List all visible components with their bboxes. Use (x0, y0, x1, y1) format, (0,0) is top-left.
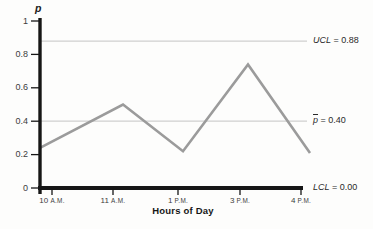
y-tick-label: 1 (0, 16, 28, 27)
x-tick-label: 10 A.M. (28, 196, 76, 206)
meridiem-suffix: P.M. (237, 197, 251, 204)
meridiem-suffix: P.M. (298, 197, 312, 204)
pbar-value: = 0.40 (318, 115, 346, 125)
lcl-label: LCL = 0.00 (313, 182, 357, 193)
lcl-value: = 0.00 (330, 182, 358, 192)
p-control-chart: p Hours of Day 10.80.60.40.2010 A.M.11 A… (0, 0, 373, 229)
meridiem-suffix: A.M. (111, 197, 125, 204)
y-tick-label: 0.8 (0, 49, 28, 60)
x-tick-label: 11 A.M. (89, 196, 137, 206)
ucl-label: UCL = 0.88 (313, 35, 359, 46)
y-axis-title: p (35, 2, 41, 14)
y-tick-label: 0 (0, 183, 28, 194)
data-line (40, 64, 310, 153)
x-tick-label: 1 P.M. (154, 196, 202, 206)
x-axis-title: Hours of Day (123, 205, 243, 216)
y-tick-label: 0.2 (0, 149, 28, 160)
pbar-label: p = 0.40 (313, 115, 346, 126)
meridiem-suffix: P.M. (175, 197, 189, 204)
x-tick-label: 4 P.M. (277, 196, 325, 206)
y-tick-label: 0.4 (0, 116, 28, 127)
ucl-value: = 0.88 (331, 35, 359, 45)
meridiem-suffix: A.M. (50, 197, 64, 204)
ucl-symbol: UCL (313, 35, 331, 45)
lcl-symbol: LCL (313, 182, 330, 192)
x-tick-label: 3 P.M. (216, 196, 264, 206)
y-tick-label: 0.6 (0, 82, 28, 93)
